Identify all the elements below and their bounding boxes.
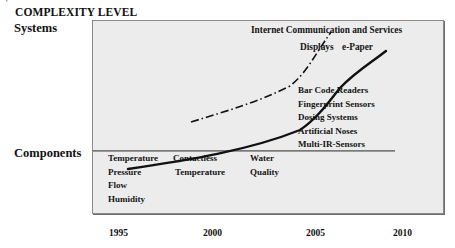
label-e-paper: e-Paper bbox=[342, 41, 373, 55]
component-item: Quality bbox=[250, 166, 279, 180]
system-application-item: Multi-IR-Sensors bbox=[298, 138, 375, 152]
system-application-item: Dosing Systems bbox=[298, 111, 375, 125]
system-application-item: Fingerprint Sensors bbox=[298, 98, 375, 112]
x-tick-2000: 2000 bbox=[203, 228, 222, 238]
y-level-components: Components bbox=[14, 146, 81, 161]
component-item: Pressure bbox=[108, 166, 158, 180]
label-displays: Displays bbox=[300, 41, 334, 55]
component-item: Humidity bbox=[108, 193, 158, 207]
component-column-3: Water Quality bbox=[250, 152, 279, 179]
component-item: Temperature bbox=[108, 152, 158, 166]
component-item: Contactless bbox=[173, 152, 225, 166]
component-item: Flow bbox=[108, 179, 158, 193]
x-tick-2010: 2010 bbox=[393, 228, 412, 238]
x-tick-1995: 1995 bbox=[109, 228, 128, 238]
component-item: Temperature bbox=[173, 166, 225, 180]
x-tick-2005: 2005 bbox=[306, 228, 325, 238]
system-applications-list: Bar Code Readers Fingerprint Sensors Dos… bbox=[298, 84, 375, 152]
system-application-item: Bar Code Readers bbox=[298, 84, 375, 98]
component-column-2: Contactless Temperature bbox=[173, 152, 225, 179]
label-internet-communication: Internet Communication and Services bbox=[251, 24, 402, 38]
corner-mark: ' bbox=[6, 0, 7, 8]
system-application-item: Artificial Noses bbox=[298, 125, 375, 139]
component-item: Water bbox=[250, 152, 279, 166]
y-level-systems: Systems bbox=[14, 21, 57, 36]
component-column-1: Temperature Pressure Flow Humidity bbox=[108, 152, 158, 206]
diagram-title: COMPLEXITY LEVEL bbox=[15, 6, 137, 18]
